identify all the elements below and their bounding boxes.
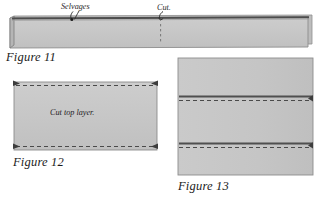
figure-canvas — [0, 0, 319, 201]
fabric-top-layer — [10, 17, 308, 48]
figure-13-illustration — [178, 58, 313, 175]
selvages-pointer-tip — [70, 18, 73, 21]
selvages-label: Selvages — [61, 2, 90, 11]
figure-11-caption: Figure 11 — [6, 50, 56, 65]
figure-11-illustration — [10, 11, 312, 48]
selvage-edge — [12, 17, 309, 18]
fabric-fold-left — [10, 16, 14, 48]
figure-12-caption: Figure 12 — [13, 155, 64, 170]
cut-top-layer-label: Cut top layer. — [50, 108, 94, 117]
figure-13-fabric — [178, 58, 313, 175]
cut-label: Cut. — [157, 3, 171, 12]
figure-13-caption: Figure 13 — [178, 179, 229, 194]
